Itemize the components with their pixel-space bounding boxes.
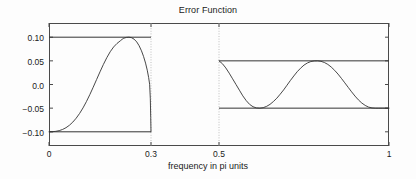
- y-tick-label: −0.10: [0, 127, 44, 137]
- screenshot-root: Error Function 0.100.050.0−0.05−0.10 00.…: [0, 0, 416, 179]
- series-passband-error: [49, 37, 151, 132]
- y-tick-label-wrap: −0.10: [0, 126, 44, 137]
- series-group: [49, 37, 389, 132]
- x-tick-label: 0: [29, 149, 69, 159]
- x-tick-label: 0.5: [199, 149, 239, 159]
- chart-svg: [49, 23, 389, 146]
- figure-canvas: Error Function 0.100.050.0−0.05−0.10 00.…: [0, 0, 416, 179]
- x-axis-label: frequency in pi units: [0, 161, 416, 171]
- x-tick-label: 0.3: [131, 149, 171, 159]
- y-tick-label-wrap: −0.05: [0, 103, 44, 114]
- y-tick-label-wrap: 0.05: [0, 55, 44, 66]
- y-tick-label: 0.10: [0, 33, 44, 43]
- y-tick-label: 0.0: [0, 80, 44, 90]
- x-tick-label: 1: [369, 149, 409, 159]
- y-tick-label: 0.05: [0, 56, 44, 66]
- chart-title: Error Function: [0, 5, 416, 15]
- gridlines-group: [151, 23, 219, 146]
- tolerance-lines-group: [49, 37, 389, 132]
- y-tick-label-wrap: 0.10: [0, 32, 44, 43]
- y-tick-label: −0.05: [0, 104, 44, 114]
- series-stopband-error: [219, 61, 389, 108]
- y-tick-label-wrap: 0.0: [0, 79, 44, 90]
